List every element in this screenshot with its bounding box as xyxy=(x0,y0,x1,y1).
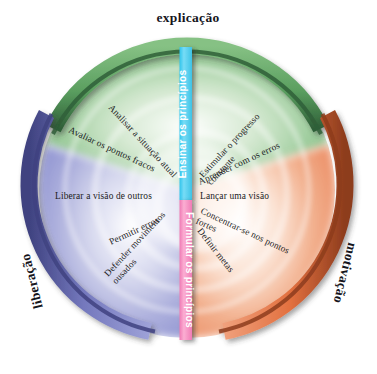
spoke-lancar-uma-visao: Lançar uma visão xyxy=(200,191,269,201)
bar-label-formular-os-principios: Formular os princípios xyxy=(184,212,195,328)
spoke-liberar-a-visao-de-outros: Liberar a visão de outros xyxy=(55,191,152,201)
sector-label-explicacao: explicação xyxy=(157,10,220,25)
bar-label-ensinar-os-principios: Ensinar os princípios xyxy=(177,69,188,178)
circular-diagram: explicação liberação motivação Ensinar o… xyxy=(0,0,377,374)
diagram-canvas: explicação liberação motivação Ensinar o… xyxy=(0,0,377,374)
